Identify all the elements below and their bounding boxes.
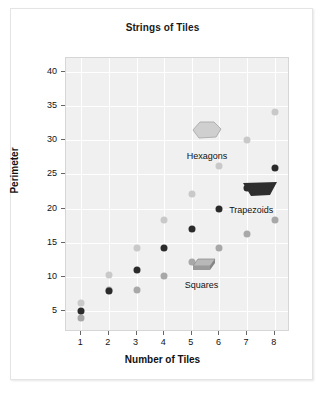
x-tick-mark xyxy=(80,331,81,335)
x-tick-label: 8 xyxy=(259,337,289,347)
chart-figure: Strings of Tiles Perimeter Number of Til… xyxy=(0,0,325,394)
chart-title: Strings of Tiles xyxy=(0,22,325,33)
y-tick-mark xyxy=(61,310,65,311)
data-point xyxy=(105,272,112,279)
gridline-horizontal xyxy=(66,140,288,141)
data-point xyxy=(78,300,85,307)
x-tick-mark xyxy=(163,331,164,335)
gridline-vertical xyxy=(81,58,82,330)
x-tick-mark xyxy=(136,331,137,335)
x-axis-label: Number of Tiles xyxy=(0,354,325,365)
square-tile-icon xyxy=(192,258,216,276)
data-point xyxy=(133,287,140,294)
y-tick-mark xyxy=(61,105,65,106)
series-annotation-label: Squares xyxy=(185,280,219,290)
x-tick-label: 2 xyxy=(93,337,123,347)
series-annotation-label: Trapezoids xyxy=(229,205,273,215)
data-point xyxy=(216,163,223,170)
x-tick-mark xyxy=(246,331,247,335)
data-point xyxy=(161,272,168,279)
data-point xyxy=(105,287,112,294)
x-tick-label: 4 xyxy=(148,337,178,347)
data-point xyxy=(78,308,85,315)
y-tick-label: 40 xyxy=(0,66,57,76)
gridline-horizontal xyxy=(66,174,288,175)
data-point xyxy=(271,164,278,171)
y-tick-label: 35 xyxy=(0,100,57,110)
y-tick-label: 20 xyxy=(0,203,57,213)
y-tick-mark xyxy=(61,276,65,277)
x-tick-mark xyxy=(218,331,219,335)
data-point xyxy=(271,217,278,224)
data-point xyxy=(78,314,85,321)
gridline-horizontal xyxy=(66,243,288,244)
x-tick-label: 3 xyxy=(121,337,151,347)
gridline-horizontal xyxy=(66,106,288,107)
y-tick-mark xyxy=(61,139,65,140)
data-point xyxy=(188,226,195,233)
y-tick-mark xyxy=(61,242,65,243)
y-tick-mark xyxy=(61,173,65,174)
y-tick-mark xyxy=(61,208,65,209)
plot-area: HexagonsTrapezoidsSquares xyxy=(65,57,289,331)
y-tick-label: 5 xyxy=(0,305,57,315)
hexagon-tile-icon xyxy=(192,121,222,143)
data-point xyxy=(161,217,168,224)
x-tick-label: 6 xyxy=(203,337,233,347)
y-tick-label: 10 xyxy=(0,271,57,281)
gridline-horizontal xyxy=(66,311,288,312)
data-point xyxy=(271,109,278,116)
data-point xyxy=(216,205,223,212)
gridline-horizontal xyxy=(66,72,288,73)
trapezoid-tile-icon xyxy=(243,181,277,201)
y-tick-label: 25 xyxy=(0,168,57,178)
gridline-vertical xyxy=(164,58,165,330)
gridline-vertical xyxy=(219,58,220,330)
y-tick-label: 15 xyxy=(0,237,57,247)
data-point xyxy=(188,190,195,197)
y-tick-mark xyxy=(61,71,65,72)
data-point xyxy=(133,244,140,251)
x-tick-label: 1 xyxy=(65,337,95,347)
gridline-horizontal xyxy=(66,277,288,278)
data-point xyxy=(161,245,168,252)
x-tick-mark xyxy=(191,331,192,335)
x-tick-mark xyxy=(108,331,109,335)
data-point xyxy=(244,136,251,143)
data-point xyxy=(133,267,140,274)
x-tick-label: 5 xyxy=(176,337,206,347)
data-point xyxy=(244,231,251,238)
data-point xyxy=(216,244,223,251)
x-tick-label: 7 xyxy=(231,337,261,347)
y-tick-label: 30 xyxy=(0,134,57,144)
x-tick-mark xyxy=(274,331,275,335)
series-annotation-label: Hexagons xyxy=(187,151,228,161)
